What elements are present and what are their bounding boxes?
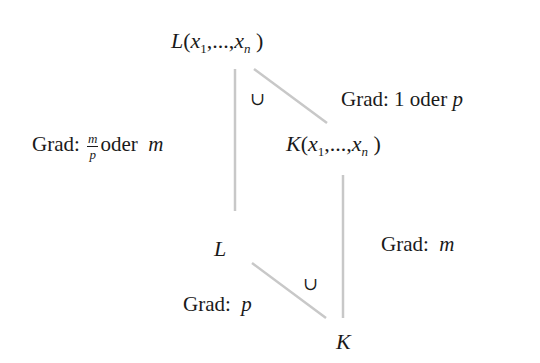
label-degree-left-vertical: Grad: mpoder m <box>32 132 163 161</box>
var-x: x <box>234 28 244 53</box>
diagram-edges <box>0 0 540 363</box>
label-degree-right-vertical: Grad: m <box>381 234 455 255</box>
var-x: x <box>352 131 362 156</box>
fraction-denominator: p <box>87 147 98 161</box>
node-symbol: L <box>171 28 183 53</box>
degree-value: 1 <box>394 87 405 111</box>
subscript: n <box>362 144 369 159</box>
degree-conjunction: oder <box>405 87 453 111</box>
ellipsis: ,..., <box>324 131 352 156</box>
degree-value: p <box>452 87 463 111</box>
ellipsis: ,..., <box>207 28 235 53</box>
degree-prefix: Grad: <box>183 292 236 316</box>
degree-value: m <box>148 132 163 156</box>
var-x: x <box>191 28 201 53</box>
degree-value: m <box>439 232 454 256</box>
label-degree-top-diagonal: Grad: 1 oder p <box>341 89 463 110</box>
node-middle-left-field: L <box>214 238 226 260</box>
degree-conjunction: oder <box>100 132 143 156</box>
node-middle-right-field-extension: K(x1,...,xn ) <box>286 133 381 158</box>
label-degree-bottom-diagonal: Grad: p <box>183 294 252 315</box>
degree-prefix: Grad: <box>381 232 434 256</box>
fraction-m-over-p: mp <box>87 132 98 161</box>
node-bottom-field: K <box>336 331 351 353</box>
node-top-field-extension: L(x1,...,xn ) <box>171 30 263 55</box>
degree-value: p <box>241 292 252 316</box>
inclusion-symbol-lower: ∪ <box>303 275 318 293</box>
var-x: x <box>308 131 318 156</box>
degree-prefix: Grad: <box>341 87 394 111</box>
subscript: n <box>244 41 251 56</box>
inclusion-symbol-upper: ∪ <box>250 90 265 108</box>
node-symbol: K <box>286 131 301 156</box>
degree-prefix: Grad: <box>32 132 85 156</box>
fraction-numerator: m <box>87 132 98 147</box>
